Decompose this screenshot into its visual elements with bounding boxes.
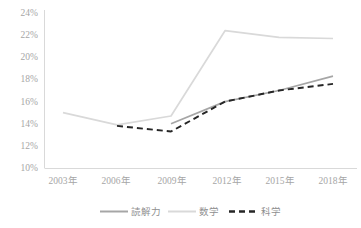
y-tick-label: 18% [21,74,39,84]
x-tick-label: 2012年 [213,175,242,186]
legend-item-math[interactable]: 数学 [168,206,219,217]
y-tick-label: 14% [21,119,39,129]
x-tick-label: 2003年 [49,175,78,186]
legend-item-science[interactable]: 科学 [229,206,281,217]
y-tick-label: 20% [21,52,39,62]
y-tick-label: 16% [21,97,39,107]
x-axis: 2003年 2006年 2009年 2012年 2015年 2018年 [49,175,348,186]
legend-label-science: 科学 [261,206,281,217]
chart-legend: 読解力 数学 科学 [100,206,281,217]
x-tick-label: 2006年 [102,175,131,186]
series-line-science [117,84,333,132]
legend-label-reading: 読解力 [131,206,161,217]
x-tick-label: 2018年 [319,175,348,186]
series-line-math [63,31,333,125]
series-line-reading [171,76,333,124]
legend-label-math: 数学 [199,206,219,217]
y-tick-label: 24% [21,8,39,18]
x-tick-label: 2015年 [266,175,295,186]
chart-canvas: 24% 22% 20% 18% 16% 14% 12% 10% 2003年 20… [0,0,361,228]
line-chart: 24% 22% 20% 18% 16% 14% 12% 10% 2003年 20… [0,0,361,228]
x-tick-label: 2009年 [158,175,187,186]
y-axis: 24% 22% 20% 18% 16% 14% 12% 10% [21,8,39,173]
y-tick-label: 12% [21,141,39,151]
y-tick-label: 22% [21,30,39,40]
legend-item-reading[interactable]: 読解力 [100,206,161,217]
y-tick-label: 10% [21,163,39,173]
